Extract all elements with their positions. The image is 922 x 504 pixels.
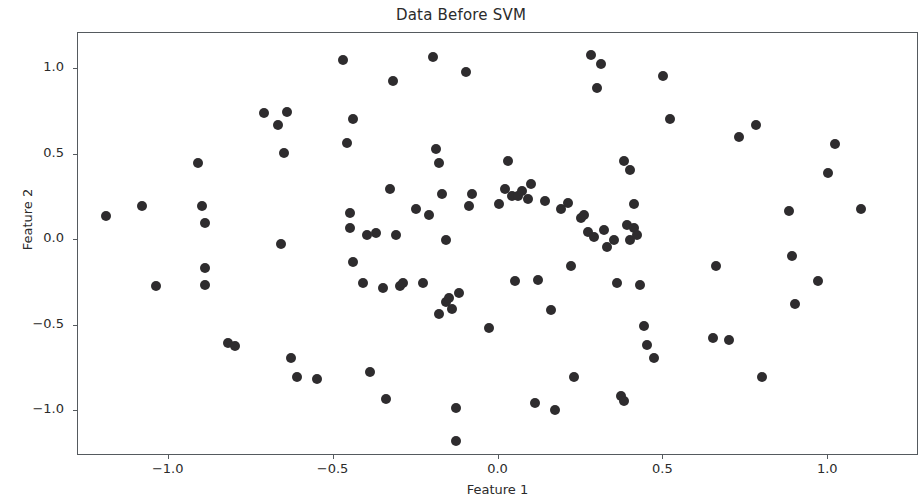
scatter-point [259,108,269,118]
scatter-point [428,52,438,62]
scatter-point [586,50,596,60]
x-tick-mark [333,455,334,459]
y-tick-mark [73,68,77,69]
scatter-point [151,281,161,291]
scatter-point [596,59,606,69]
scatter-point [649,353,659,363]
scatter-point [563,198,573,208]
scatter-point [856,204,866,214]
scatter-point [510,276,520,286]
scatter-point [437,189,447,199]
x-tick-mark [168,455,169,459]
scatter-point [579,210,589,220]
scatter-point [639,321,649,331]
scatter-point [658,71,668,81]
scatter-point [609,235,619,245]
scatter-point [286,353,296,363]
scatter-point [276,239,286,249]
scatter-point [494,199,504,209]
scatter-point [447,304,457,314]
scatter-point [629,199,639,209]
y-tick-label: 0.5 [0,145,64,160]
scatter-point [193,158,203,168]
y-tick-label: −0.5 [0,316,64,331]
scatter-point [378,283,388,293]
scatter-point [566,261,576,271]
scatter-point [292,372,302,382]
scatter-point [592,83,602,93]
scatter-point [569,372,579,382]
x-tick-mark [827,455,828,459]
scatter-point [830,139,840,149]
y-tick-mark [73,325,77,326]
scatter-point [784,206,794,216]
scatter-point [523,194,533,204]
chart-title: Data Before SVM [0,6,922,24]
scatter-point [546,305,556,315]
scatter-point [787,251,797,261]
scatter-point [589,232,599,242]
scatter-point [751,120,761,130]
scatter-point [533,275,543,285]
y-tick-label: 1.0 [0,59,64,74]
scatter-plot-figure: Data Before SVM −1.0−0.50.00.51.0 −1.0−0… [0,0,922,504]
scatter-point [434,158,444,168]
scatter-point [411,204,421,214]
scatter-point [625,165,635,175]
scatter-point [724,335,734,345]
scatter-point [431,144,441,154]
scatter-point [345,223,355,233]
scatter-point [526,179,536,189]
scatter-point [461,67,471,77]
scatter-point [441,235,451,245]
scatter-point [391,230,401,240]
scatter-point [137,201,147,211]
x-tick-label: 0.0 [463,461,533,476]
scatter-point [813,276,823,286]
scatter-point [101,211,111,221]
y-axis-label: Feature 2 [20,170,35,270]
x-tick-label: 1.0 [792,461,862,476]
scatter-point [200,280,210,290]
x-tick-label: −1.0 [133,461,203,476]
scatter-point [418,278,428,288]
scatter-point [230,341,240,351]
scatter-point [371,228,381,238]
scatter-point [734,132,744,142]
scatter-point [503,156,513,166]
scatter-point [540,196,550,206]
scatter-point [642,340,652,350]
y-tick-mark [73,410,77,411]
scatter-point [823,168,833,178]
scatter-point [385,184,395,194]
scatter-point [200,218,210,228]
scatter-point [434,309,444,319]
scatter-point [467,189,477,199]
scatter-point [632,230,642,240]
scatter-point [365,367,375,377]
scatter-point [550,405,560,415]
scatter-point [197,201,207,211]
scatter-point [279,148,289,158]
scatter-point [612,278,622,288]
scatter-point [348,257,358,267]
scatter-point [484,323,494,333]
x-tick-label: −0.5 [298,461,368,476]
scatter-point [348,114,358,124]
scatter-point [665,114,675,124]
scatter-point [342,138,352,148]
scatter-point [708,333,718,343]
y-tick-mark [73,154,77,155]
y-tick-label: −1.0 [0,401,64,416]
scatter-point [273,120,283,130]
scatter-point [635,280,645,290]
scatter-point [424,210,434,220]
x-tick-mark [662,455,663,459]
x-axis-label: Feature 1 [77,482,918,497]
scatter-point [345,208,355,218]
scatter-point [619,396,629,406]
x-tick-label: 0.5 [627,461,697,476]
scatter-point [599,225,609,235]
scatter-point [358,278,368,288]
scatter-point [444,293,454,303]
